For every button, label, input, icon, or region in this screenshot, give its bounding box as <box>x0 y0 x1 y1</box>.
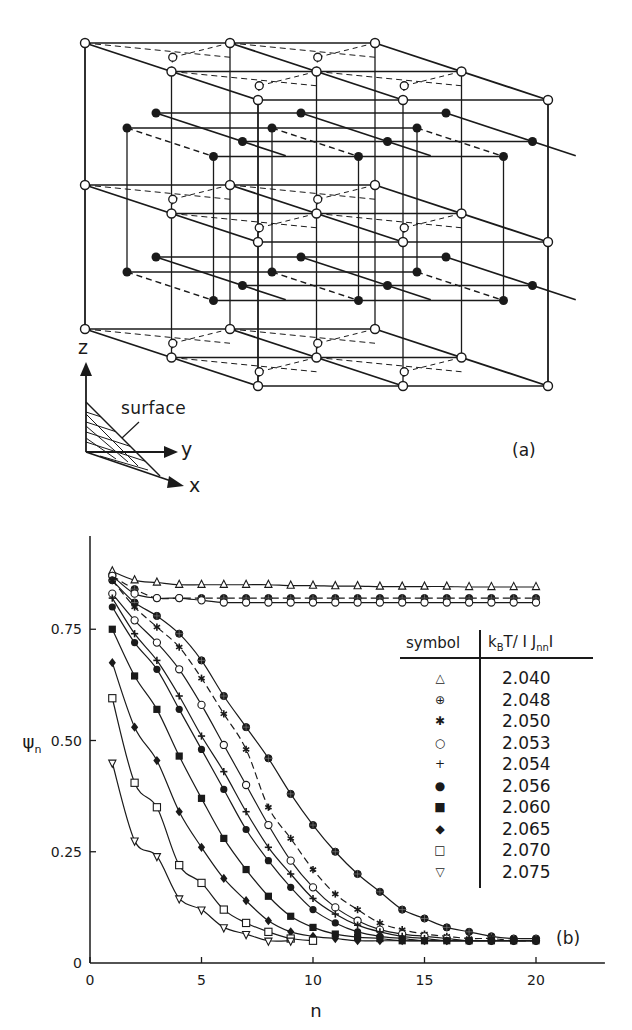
legend-symbol-plus-icon: + <box>430 757 450 771</box>
legend-value: 2.040 <box>502 668 551 688</box>
filled-square-marker-icon <box>153 706 160 713</box>
open-circle-marker-icon <box>332 599 339 606</box>
crossed-circle-marker-icon <box>399 906 406 913</box>
open-circle-marker-icon <box>265 821 272 828</box>
open-triangle-up-marker-icon <box>443 582 450 589</box>
open-circle-marker-icon <box>309 599 316 606</box>
legend-symbol-open-triangle-down-icon: ▽ <box>430 865 450 879</box>
open-circle-marker-icon <box>466 599 473 606</box>
x-axis-title: n <box>310 1000 321 1021</box>
open-circle-marker-icon <box>309 884 316 891</box>
open-circle-marker-icon <box>265 599 272 606</box>
open-triangle-down-marker-icon <box>265 938 272 945</box>
legend-value: 2.056 <box>502 776 551 796</box>
plus-marker-icon <box>198 732 205 739</box>
y-tick-label: 0.75 <box>51 621 82 637</box>
x-tick-label: 10 <box>304 972 322 988</box>
legend-symbol-open-triangle-up-icon: △ <box>430 671 450 685</box>
crossed-circle-marker-icon <box>466 928 473 935</box>
open-triangle-up-marker-icon <box>488 582 495 589</box>
legend-table: symbol kBT/ I JnnI △2.040⊕2.048✱2.050○2.… <box>398 630 593 892</box>
legend-value: 2.065 <box>502 819 551 839</box>
open-circle-marker-icon <box>376 599 383 606</box>
series-2.053-upper <box>109 572 540 606</box>
open-triangle-up-marker-icon <box>421 582 428 589</box>
open-circle-marker-icon <box>532 599 539 606</box>
open-circle-marker-icon <box>287 599 294 606</box>
open-circle-marker-icon <box>354 599 361 606</box>
legend-symbol-open-circle-icon: ○ <box>430 736 450 750</box>
open-square-marker-icon <box>131 779 138 786</box>
open-circle-marker-icon <box>443 599 450 606</box>
open-square-marker-icon <box>220 906 227 913</box>
x-tick-label: 15 <box>416 972 434 988</box>
crossed-circle-marker-icon <box>176 630 183 637</box>
y-tick-label: 0 <box>73 955 82 971</box>
filled-diamond-marker-icon <box>131 723 138 732</box>
plus-marker-icon <box>220 768 227 775</box>
plus-marker-icon <box>243 808 250 815</box>
legend-value: 2.053 <box>502 733 551 753</box>
legend-value: 2.070 <box>502 840 551 860</box>
y-tick-label: 0.50 <box>51 733 82 749</box>
open-circle-marker-icon <box>176 666 183 673</box>
open-triangle-up-marker-icon <box>176 580 183 587</box>
series-2.040 <box>109 567 540 590</box>
legend-symbol-filled-diamond-icon: ◆ <box>430 822 450 836</box>
open-triangle-down-marker-icon <box>176 896 183 903</box>
crossed-circle-marker-icon <box>309 821 316 828</box>
y-axis-title: ψn <box>23 731 42 756</box>
legend-value: 2.075 <box>502 862 551 882</box>
y-tick-label: 0.25 <box>51 844 82 860</box>
open-square-marker-icon <box>153 804 160 811</box>
legend-divider-vertical <box>479 630 481 888</box>
legend-divider-horizontal <box>400 657 593 659</box>
open-circle-marker-icon <box>243 781 250 788</box>
filled-square-marker-icon <box>265 893 272 900</box>
legend-symbol-asterisk-icon: ✱ <box>430 714 450 728</box>
open-circle-marker-icon <box>176 595 183 602</box>
open-triangle-up-marker-icon <box>532 582 539 589</box>
open-triangle-up-marker-icon <box>354 581 361 588</box>
open-triangle-down-marker-icon <box>198 907 205 914</box>
x-tick-label: 0 <box>86 972 95 988</box>
plus-marker-icon <box>176 692 183 699</box>
series-line <box>112 571 536 587</box>
crossed-circle-marker-icon <box>265 755 272 762</box>
asterisk-marker-icon <box>377 919 383 926</box>
open-square-marker-icon <box>198 879 205 886</box>
open-circle-marker-icon <box>243 599 250 606</box>
crossed-circle-marker-icon <box>287 790 294 797</box>
x-tick-label: 20 <box>527 972 545 988</box>
legend-header-symbol: symbol <box>406 634 460 652</box>
open-triangle-up-marker-icon <box>376 582 383 589</box>
open-circle-marker-icon <box>198 597 205 604</box>
crossed-circle-marker-icon <box>153 612 160 619</box>
open-circle-marker-icon <box>332 904 339 911</box>
filled-square-marker-icon <box>243 866 250 873</box>
legend-value: 2.050 <box>502 711 551 731</box>
open-circle-marker-icon <box>220 599 227 606</box>
legend-symbol-filled-circle-icon: ● <box>430 779 450 793</box>
open-circle-marker-icon <box>421 599 428 606</box>
filled-circle-marker-icon <box>243 826 250 833</box>
legend-symbol-open-square-icon: □ <box>430 843 450 857</box>
open-circle-marker-icon <box>399 599 406 606</box>
filled-square-marker-icon <box>287 913 294 920</box>
open-circle-marker-icon <box>131 617 138 624</box>
filled-circle-marker-icon <box>309 906 316 913</box>
filled-square-marker-icon <box>131 672 138 679</box>
asterisk-marker-icon <box>265 804 271 811</box>
filled-square-marker-icon <box>109 626 116 633</box>
panel-b-label: (b) <box>556 928 580 948</box>
open-triangle-up-marker-icon <box>466 582 473 589</box>
open-circle-marker-icon <box>287 857 294 864</box>
asterisk-marker-icon <box>243 746 249 753</box>
open-triangle-up-marker-icon <box>287 581 294 588</box>
open-square-marker-icon <box>243 919 250 926</box>
filled-circle-marker-icon <box>220 786 227 793</box>
filled-square-marker-icon <box>198 795 205 802</box>
open-triangle-up-marker-icon <box>243 580 250 587</box>
open-circle-marker-icon <box>488 599 495 606</box>
open-triangle-up-marker-icon <box>153 578 160 585</box>
